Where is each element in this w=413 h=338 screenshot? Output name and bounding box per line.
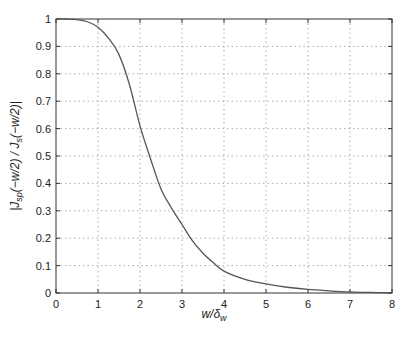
y-tick-label: 0.1 [36,260,51,272]
x-axis-tick-labels: 012345678 [53,298,395,310]
y-tick-label: 0.7 [36,95,51,107]
y-tick-label: 0.6 [36,123,51,135]
grid-lines [56,19,392,293]
x-tick-label: 3 [179,298,185,310]
y-tick-label: 0.9 [36,40,51,52]
x-axis-label-main: w/δ [201,307,220,321]
y-tick-label: 0.5 [36,150,51,162]
y-label-part: (−w/2) / J [8,141,22,192]
chart: 012345678 00.10.20.30.40.50.60.70.80.91 … [0,0,413,338]
x-tick-label: 7 [347,298,353,310]
y-tick-label: 0.8 [36,68,51,80]
x-tick-label: 6 [305,298,311,310]
y-tick-label: 0.3 [36,205,51,217]
y-label-subscript: sp [14,192,24,202]
x-tick-label: 0 [53,298,59,310]
x-axis-label-subscript: w [220,313,227,323]
y-tick-label: 0 [45,287,51,299]
x-tick-label: 5 [263,298,269,310]
y-tick-label: 1 [45,13,51,25]
x-tick-label: 2 [137,298,143,310]
y-label-part: (−w/2)| [8,101,22,138]
x-tick-label: 8 [389,298,395,310]
y-axis-label: |Jsp(−w/2) / Js(−w/2)| [8,101,24,211]
y-tick-label: 0.4 [36,177,51,189]
x-tick-label: 4 [221,298,227,310]
y-tick-label: 0.2 [36,232,51,244]
y-axis-tick-labels: 00.10.20.30.40.50.60.70.80.91 [36,13,51,299]
x-tick-label: 1 [95,298,101,310]
